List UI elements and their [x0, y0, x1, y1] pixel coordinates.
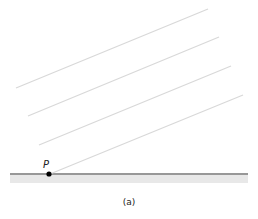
point-label: P [43, 159, 49, 170]
ray-1 [16, 9, 208, 88]
diagram-canvas [0, 0, 258, 219]
ray-4 [50, 95, 243, 174]
figure-caption: (a) [0, 197, 258, 207]
point-p [46, 171, 51, 176]
ground-shade [10, 175, 248, 183]
ray-2 [28, 37, 219, 116]
ray-3 [39, 66, 231, 145]
